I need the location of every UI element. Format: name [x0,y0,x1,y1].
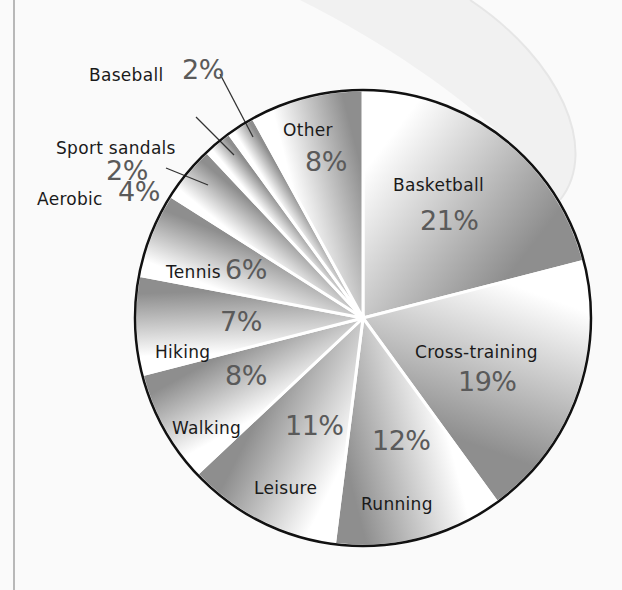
label-walking: Walking [172,418,241,438]
pct-hiking: 7% [220,306,262,337]
label-running: Running [361,494,433,514]
label-tennis: Tennis [166,262,221,282]
label-cross-training: Cross-training [415,342,538,362]
label-baseball: Baseball [89,65,163,85]
pct-baseball: 2% [182,54,224,85]
pct-cross-training: 19% [458,366,517,397]
pie-chart [0,0,622,590]
pie-slices [135,90,591,546]
label-basketball: Basketball [393,175,484,195]
pct-other: 8% [305,146,347,177]
label-leisure: Leisure [254,478,317,498]
label-other: Other [283,120,333,140]
pct-sport-sandals: 2% [106,155,148,186]
pct-running: 12% [372,425,431,456]
pct-walking: 8% [225,360,267,391]
pct-basketball: 21% [420,205,479,236]
label-hiking: Hiking [155,342,210,362]
pct-tennis: 6% [225,254,267,285]
pct-leisure: 11% [285,410,344,441]
label-aerobic: Aerobic [37,189,103,209]
